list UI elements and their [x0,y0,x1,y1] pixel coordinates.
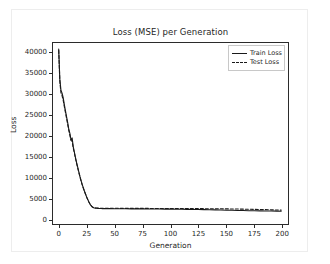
y-tick-label: 35000 [14,69,47,77]
legend-label-test-loss: Test Loss [250,58,279,67]
line-test-loss [59,50,281,210]
x-tick-mark [254,225,255,228]
x-tick-mark [171,225,172,228]
x-tick-mark [198,225,199,228]
x-tick-label: 125 [192,230,205,238]
y-tick-label: 30000 [14,90,47,98]
y-tick-label: 20000 [14,132,47,140]
x-tick-label: 50 [110,230,119,238]
x-axis-label: Generation [52,241,289,250]
x-tick-label: 100 [164,230,177,238]
legend-swatch-solid [232,50,247,57]
line-train-loss [59,49,281,211]
x-tick-label: 0 [56,230,60,238]
chart-figure: Loss (MSE) per Generation Loss Generatio… [0,0,330,264]
y-tick-label: 15000 [14,153,47,161]
x-tick-label: 200 [276,230,289,238]
x-tick-label: 75 [138,230,147,238]
x-tick-label: 175 [248,230,261,238]
chart-title: Loss (MSE) per Generation [52,27,289,37]
x-tick-mark [143,225,144,228]
y-tick-label: 40000 [14,48,47,56]
legend-label-train-loss: Train Loss [250,49,282,58]
x-tick-mark [226,225,227,228]
legend-item-test-loss: Test Loss [232,58,280,67]
y-tick-label: 25000 [14,111,47,119]
y-tick-label: 5000 [14,195,47,203]
legend-swatch-dashed [232,59,247,66]
x-tick-label: 150 [220,230,233,238]
x-tick-label: 25 [82,230,91,238]
x-tick-mark [282,225,283,228]
y-tick-label: 0 [14,216,47,224]
y-tick-label: 10000 [14,174,47,182]
chart-legend: Train Loss Test Loss [228,45,285,71]
legend-item-train-loss: Train Loss [232,49,280,58]
x-tick-mark [115,225,116,228]
x-tick-mark [87,225,88,228]
x-tick-mark [59,225,60,228]
